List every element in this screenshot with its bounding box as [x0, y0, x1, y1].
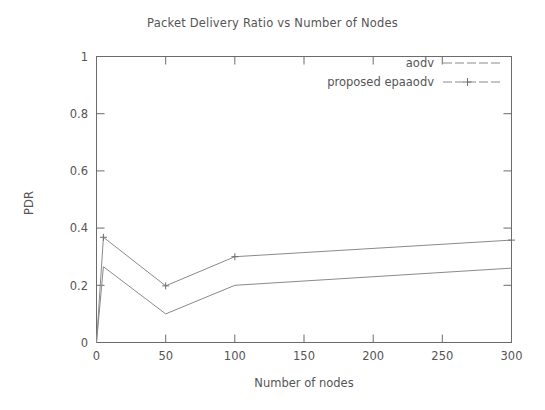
y-axis-ticks: [97, 57, 512, 343]
x-axis-ticks: [97, 57, 512, 343]
series-group: [97, 234, 516, 343]
chart-container: Packet Delivery Ratio vs Number of Nodes…: [0, 0, 545, 410]
x-tick-label-150: 150: [293, 349, 315, 363]
x-axis-tick-labels: 0 50 100 150 200 250 300: [93, 349, 523, 363]
x-tick-label-200: 200: [362, 349, 384, 363]
legend-marker-plus-icon: [464, 78, 472, 86]
y-axis-title: PDR: [22, 191, 36, 215]
y-tick-label-0.4: 0.4: [70, 221, 88, 235]
x-tick-label-300: 300: [501, 349, 523, 363]
y-tick-label-0: 0: [81, 336, 88, 350]
legend: aodv proposed epaaodv: [327, 56, 500, 89]
y-axis-tick-labels: 1 0.8 0.6 0.4 0.2 0: [70, 50, 88, 350]
legend-label-proposed-epaaodv: proposed epaaodv: [327, 75, 434, 89]
x-tick-label-0: 0: [93, 349, 100, 363]
x-axis-title: Number of nodes: [254, 376, 353, 390]
plot-frame: [97, 57, 512, 343]
series-line-aodv: [97, 267, 512, 343]
x-tick-label-50: 50: [158, 349, 173, 363]
y-tick-label-0.8: 0.8: [70, 107, 88, 121]
legend-label-aodv: aodv: [406, 56, 434, 70]
y-tick-label-1: 1: [81, 50, 88, 64]
y-tick-label-0.2: 0.2: [70, 279, 88, 293]
series-line-proposed-epaaodv: [97, 237, 512, 342]
x-tick-label-100: 100: [224, 349, 246, 363]
plot-area: 1 0.8 0.6 0.4 0.2 0 0 50: [0, 0, 545, 410]
x-tick-label-250: 250: [431, 349, 453, 363]
y-tick-label-0.6: 0.6: [70, 164, 88, 178]
